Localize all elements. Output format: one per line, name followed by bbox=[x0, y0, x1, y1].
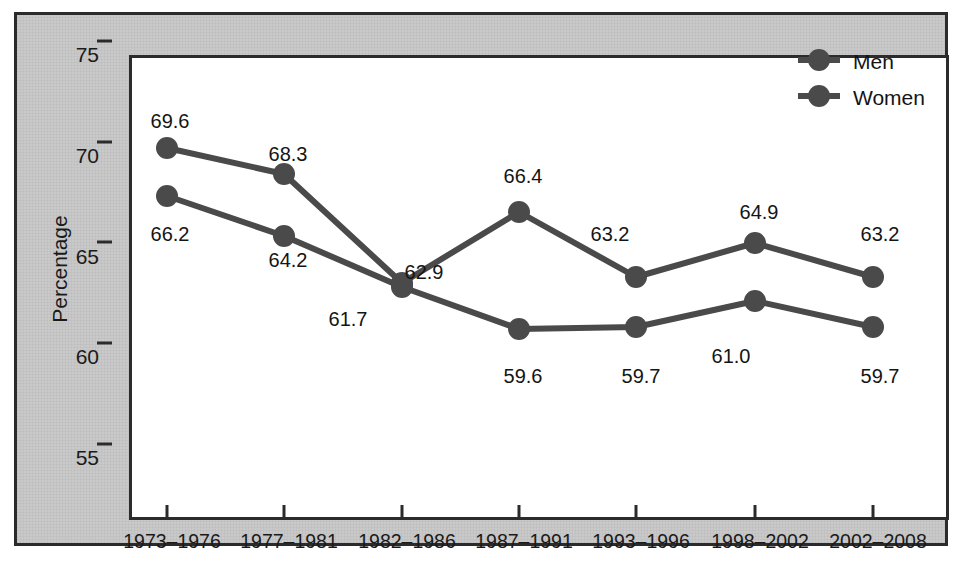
y-tick-label-55: 55 bbox=[39, 446, 99, 470]
data-label-women-5: 59.7 bbox=[606, 365, 676, 388]
data-label-men-3: 62.9 bbox=[389, 261, 459, 284]
y-tick-label-65: 65 bbox=[39, 245, 99, 269]
data-label-men-2: 68.3 bbox=[253, 143, 323, 166]
legend-label-women: Women bbox=[853, 86, 925, 110]
data-label-women-6: 61.0 bbox=[696, 345, 766, 368]
y-axis-title: Percentage bbox=[48, 189, 72, 349]
y-tick-label-75: 75 bbox=[39, 43, 99, 67]
data-label-women-7: 59.7 bbox=[845, 365, 915, 388]
data-label-men-5: 63.2 bbox=[575, 223, 645, 246]
legend-label-men: Men bbox=[853, 50, 894, 74]
data-label-women-1: 66.2 bbox=[135, 223, 205, 246]
data-label-men-1: 69.6 bbox=[135, 110, 205, 133]
data-label-women-3: 61.7 bbox=[313, 308, 383, 331]
chart-outer-frame: Percentage 75 70 65 60 55 1973–1976 1977… bbox=[14, 12, 948, 546]
data-label-men-7: 63.2 bbox=[845, 223, 915, 246]
data-label-men-4: 66.4 bbox=[488, 165, 558, 188]
data-label-men-6: 64.9 bbox=[724, 201, 794, 224]
plot-area bbox=[129, 55, 949, 520]
chart-figure: Percentage 75 70 65 60 55 1973–1976 1977… bbox=[0, 0, 965, 564]
y-tick-label-60: 60 bbox=[39, 345, 99, 369]
data-label-women-2: 64.2 bbox=[253, 249, 323, 272]
data-label-women-4: 59.6 bbox=[488, 365, 558, 388]
x-tick-label-7: 2002–2008 bbox=[803, 530, 953, 553]
y-tick-label-70: 70 bbox=[39, 144, 99, 168]
